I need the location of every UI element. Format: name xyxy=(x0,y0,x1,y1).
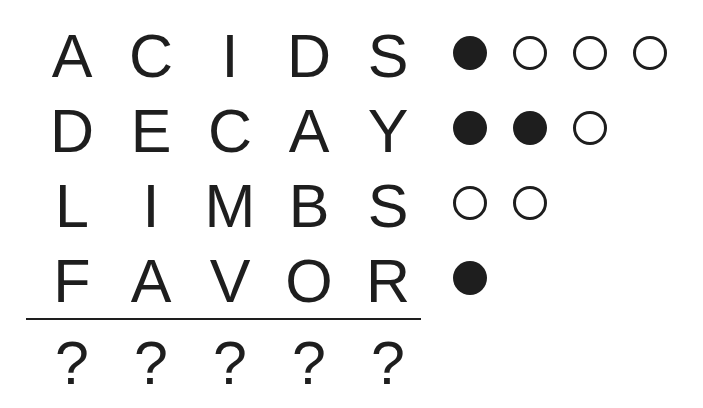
guess-letter: C xyxy=(121,26,181,86)
guess-letter: S xyxy=(358,176,418,236)
unknown-letter: ? xyxy=(121,333,181,393)
guess-letter: O xyxy=(279,251,339,311)
guess-letter: B xyxy=(279,176,339,236)
guess-letter: C xyxy=(200,101,260,161)
guess-row-favor: FAVOR xyxy=(0,251,703,311)
unknown-letter: ? xyxy=(200,333,260,393)
guess-row-acids: ACIDS xyxy=(0,26,703,86)
unknown-letter: ? xyxy=(279,333,339,393)
empty-circle-icon xyxy=(453,186,487,220)
guess-letter: L xyxy=(42,176,102,236)
guess-letter: I xyxy=(121,176,181,236)
filled-circle-icon xyxy=(453,111,487,145)
answer-row: ????? xyxy=(0,333,703,393)
guess-letter: A xyxy=(279,101,339,161)
filled-circle-icon xyxy=(453,36,487,70)
guess-letter: A xyxy=(42,26,102,86)
guess-letter: I xyxy=(200,26,260,86)
empty-circle-icon xyxy=(513,186,547,220)
empty-circle-icon xyxy=(573,36,607,70)
guess-letter: E xyxy=(121,101,181,161)
guess-letter: A xyxy=(121,251,181,311)
guess-letter: R xyxy=(358,251,418,311)
guess-letter: S xyxy=(358,26,418,86)
empty-circle-icon xyxy=(513,36,547,70)
guess-letter: F xyxy=(42,251,102,311)
guess-letter: D xyxy=(42,101,102,161)
guess-row-decay: DECAY xyxy=(0,101,703,161)
guess-letter: Y xyxy=(358,101,418,161)
guess-letter: V xyxy=(200,251,260,311)
empty-circle-icon xyxy=(633,36,667,70)
guess-letter: D xyxy=(279,26,339,86)
filled-circle-icon xyxy=(513,111,547,145)
answer-divider xyxy=(26,318,421,320)
guess-letter: M xyxy=(200,176,260,236)
unknown-letter: ? xyxy=(42,333,102,393)
filled-circle-icon xyxy=(453,261,487,295)
guess-row-limbs: LIMBS xyxy=(0,176,703,236)
empty-circle-icon xyxy=(573,111,607,145)
unknown-letter: ? xyxy=(358,333,418,393)
